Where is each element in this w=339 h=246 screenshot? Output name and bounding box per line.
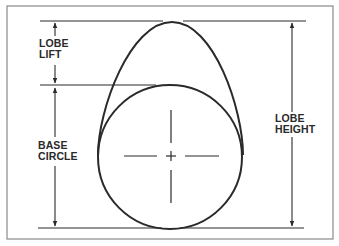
lobe-height-label-line2: HEIGHT bbox=[275, 124, 315, 135]
center-crosshair bbox=[124, 110, 219, 203]
lobe-height-label: LOBE HEIGHT bbox=[275, 113, 315, 135]
base-circle-label-line2: CIRCLE bbox=[38, 151, 78, 162]
base-circle bbox=[98, 85, 242, 229]
base-circle-label: BASE CIRCLE bbox=[38, 140, 78, 162]
lobe-lift-label: LOBE LIFT bbox=[39, 38, 69, 60]
lobe-lift-label-line2: LIFT bbox=[39, 49, 69, 60]
